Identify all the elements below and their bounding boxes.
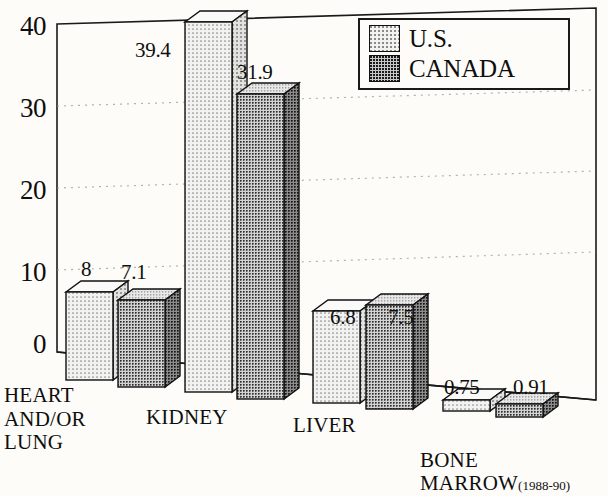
value-label-kidney-canada: 31.9 [237,62,273,83]
y-axis-tick-0: 0 [0,331,46,358]
bar-heart-lung-canada [118,289,180,387]
legend-label-us: U.S. [409,26,453,51]
value-label-bone-marrow-us: 0.75 [444,377,480,398]
value-label-bone-marrow-canada: 0.91 [513,377,549,398]
value-label-liver-canada: 7.5 [388,307,413,328]
y-axis-tick-10: 10 [0,259,46,286]
y-axis-tick-30: 30 [0,95,46,122]
legend: U.S. CANADA [358,18,570,90]
legend-swatch-us-icon [369,25,400,52]
legend-swatch-canada-icon [369,55,400,82]
legend-label-canada: CANADA [409,56,515,81]
category-label-bone-marrow: BONE MARROW(1988-90) [420,425,570,496]
category-label-bone-marrow-text: BONE MARROW [420,448,518,496]
value-label-heart-lung-us: 8 [81,259,91,280]
value-label-heart-lung-canada: 7.1 [121,262,146,283]
category-label-heart-lung: HEART AND/OR LUNG [4,384,86,455]
bar-kidney-canada [237,83,299,399]
y-axis-tick-40: 40 [0,13,46,40]
bone-marrow-year-note: (1988-90) [518,478,570,493]
value-label-kidney-us: 39.4 [135,40,171,61]
category-label-kidney: KIDNEY [146,406,228,430]
legend-item-canada: CANADA [369,55,515,82]
category-label-liver: LIVER [293,414,356,438]
legend-item-us: U.S. [369,25,453,52]
value-label-liver-us: 6.8 [330,307,355,328]
y-axis-tick-20: 20 [0,177,46,204]
